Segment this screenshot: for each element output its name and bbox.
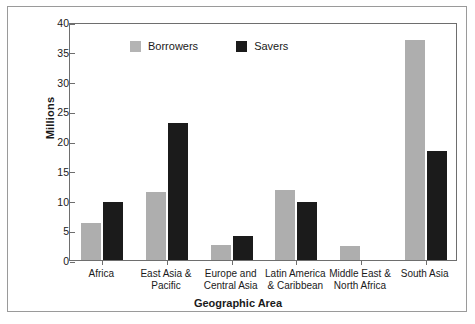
x-tick-label-line: Africa [69,268,134,280]
chart-figure: Millions 0510152025303540 Borrowers Save… [7,6,467,312]
y-tick-label: 15 [43,166,69,178]
bar-borrowers-1 [146,192,166,260]
bar-savers-1 [168,123,188,260]
bar-savers-5 [427,151,447,260]
x-tick-mark [102,260,103,265]
y-tick-mark [70,232,75,233]
x-axis-title: Geographic Area [8,297,468,309]
y-tick-mark [70,143,75,144]
y-tick-label: 20 [43,136,69,148]
y-tick-label: 25 [43,106,69,118]
x-tick-mark [167,260,168,265]
legend-label-borrowers: Borrowers [148,40,198,52]
x-tick-mark [232,260,233,265]
legend-item-borrowers: Borrowers [130,40,198,52]
bar-borrowers-2 [211,245,231,260]
x-tick-label-line: Central Asia [198,280,263,292]
bar-savers-2 [233,236,253,260]
plot-area: Borrowers Savers [69,23,457,261]
y-tick-label: 5 [43,225,69,237]
y-tick-mark [70,202,75,203]
y-tick-label: 35 [43,47,69,59]
y-axis: 0510152025303540 [38,23,69,261]
bar-borrowers-3 [275,190,295,260]
x-tick-mark [426,260,427,265]
x-tick-mark [361,260,362,265]
bar-savers-3 [297,202,317,260]
x-tick-label-line: East Asia & [134,268,199,280]
y-tick-mark [70,172,75,173]
x-tick-label-line: Latin America [263,268,328,280]
x-tick-label: Africa [69,268,134,280]
bar-savers-0 [103,202,123,260]
legend-label-savers: Savers [254,40,288,52]
y-tick-mark [70,83,75,84]
x-tick-label: Europe andCentral Asia [198,268,263,291]
x-tick-label-line: South Asia [392,268,457,280]
bar-borrowers-5 [405,40,425,260]
y-tick-label: 0 [43,255,69,267]
x-tick-label-line: Pacific [134,280,199,292]
x-tick-mark [296,260,297,265]
x-tick-label-line: Europe and [198,268,263,280]
y-tick-label: 10 [43,196,69,208]
x-tick-label: Middle East &North Africa [328,268,393,291]
x-tick-label: East Asia &Pacific [134,268,199,291]
x-tick-label-line: & Caribbean [263,280,328,292]
x-tick-label: South Asia [392,268,457,280]
bar-borrowers-0 [81,223,101,260]
y-tick-label: 30 [43,77,69,89]
legend-swatch-savers [236,41,247,52]
x-tick-label: Latin America& Caribbean [263,268,328,291]
y-tick-mark [70,113,75,114]
y-tick-mark [70,24,75,25]
y-tick-mark [70,262,75,263]
legend-swatch-borrowers [130,41,141,52]
y-tick-mark [70,53,75,54]
legend-item-savers: Savers [236,40,288,52]
x-tick-label-line: Middle East & [328,268,393,280]
y-tick-label: 40 [43,17,69,29]
x-tick-label-line: North Africa [328,280,393,292]
chart-legend: Borrowers Savers [130,40,288,52]
bar-borrowers-4 [340,246,360,260]
